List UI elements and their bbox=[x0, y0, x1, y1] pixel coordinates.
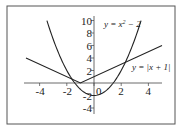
y-tick-label: 2 bbox=[87, 65, 93, 77]
y-tick-label: 8 bbox=[87, 27, 93, 39]
graph: -4-2024108642-2-4 y = x2 − 2 y = |x + 1| bbox=[0, 0, 179, 129]
y-tick-label: -4 bbox=[83, 102, 93, 114]
x-tick-label: -2 bbox=[63, 85, 72, 97]
abs-line-label: y = |x + 1| bbox=[131, 62, 171, 72]
y-tick-label: 4 bbox=[87, 52, 93, 64]
x-tick-label: 2 bbox=[118, 85, 124, 97]
x-tick-label: 4 bbox=[145, 85, 151, 97]
y-tick-label: 10 bbox=[81, 15, 93, 27]
y-tick-label: 6 bbox=[87, 40, 93, 52]
parabola-label: y = x2 − 2 bbox=[103, 19, 141, 29]
x-tick-label: -4 bbox=[36, 85, 46, 97]
